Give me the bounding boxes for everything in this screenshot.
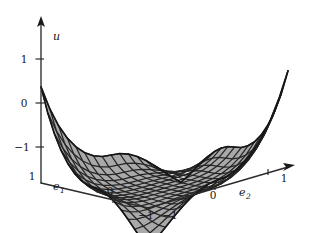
e2-axis-label-group: e 2 xyxy=(239,186,251,201)
plot-canvas: u 1 0 −1 e 1 1 0 −1 e 2 −1 0 1 xyxy=(0,0,311,233)
e2-tick-1: 1 xyxy=(281,172,288,184)
e2-tick-neg1: −1 xyxy=(162,209,177,221)
u-tick-0: 0 xyxy=(21,97,28,109)
e2-axis-subscript: 2 xyxy=(245,192,251,201)
u-tick-neg1: −1 xyxy=(14,141,29,153)
e2-axis-label: e xyxy=(239,186,246,199)
u-axis-label: u xyxy=(53,30,60,43)
e1-axis-subscript: 1 xyxy=(60,186,65,195)
e1-axis-label-group: e 1 xyxy=(53,180,65,195)
e1-tick-1: 1 xyxy=(29,170,36,182)
e1-axis-label: e xyxy=(53,180,60,193)
e1-tick-0: 0 xyxy=(107,185,114,197)
e2-tick-0: 0 xyxy=(210,189,217,201)
surface-plot-figure: u 1 0 −1 e 1 1 0 −1 e 2 −1 0 1 xyxy=(0,0,311,233)
e1-tick-neg1: −1 xyxy=(138,209,153,221)
u-tick-1: 1 xyxy=(21,53,28,65)
e2-axis-arrow-icon xyxy=(283,163,295,171)
